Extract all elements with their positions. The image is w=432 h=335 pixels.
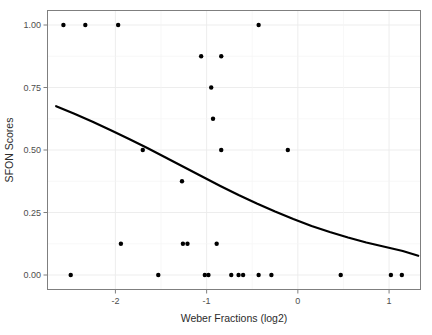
x-axis: -2-101 — [111, 290, 391, 306]
data-point — [61, 23, 65, 27]
data-point — [181, 242, 185, 246]
data-point — [219, 148, 223, 152]
data-point — [236, 273, 240, 277]
data-point — [400, 273, 404, 277]
data-point — [211, 117, 215, 121]
data-point — [214, 242, 218, 246]
x-tick-label-3: 1 — [387, 296, 392, 306]
data-point — [206, 273, 210, 277]
data-point — [141, 148, 145, 152]
plot-canvas: 0.000.250.500.751.00-2-101Weber Fraction… — [0, 0, 432, 335]
data-point — [199, 54, 203, 58]
x-tick-label-1: -1 — [203, 296, 211, 306]
data-point — [241, 273, 245, 277]
x-tick-label-0: -2 — [111, 296, 119, 306]
x-tick-label-2: 0 — [295, 296, 300, 306]
data-point — [219, 54, 223, 58]
data-point — [156, 273, 160, 277]
data-point — [116, 23, 120, 27]
data-point — [229, 273, 233, 277]
data-point — [180, 179, 184, 183]
y-axis: 0.000.250.500.751.00 — [23, 20, 47, 280]
data-point — [389, 273, 393, 277]
data-point — [83, 23, 87, 27]
scatter-plot-figure: 0.000.250.500.751.00-2-101Weber Fraction… — [0, 0, 432, 335]
x-axis-title: Weber Fractions (log2) — [181, 312, 288, 324]
data-point — [286, 148, 290, 152]
data-point — [69, 273, 73, 277]
data-point — [185, 242, 189, 246]
y-tick-label-0: 0.00 — [23, 270, 41, 280]
data-point — [119, 242, 123, 246]
data-point — [256, 23, 260, 27]
y-tick-label-3: 0.75 — [23, 83, 41, 93]
data-point — [339, 273, 343, 277]
data-point — [256, 273, 260, 277]
y-tick-label-1: 0.25 — [23, 208, 41, 218]
y-tick-label-4: 1.00 — [23, 20, 41, 30]
data-point — [269, 273, 273, 277]
y-tick-label-2: 0.50 — [23, 145, 41, 155]
data-point — [209, 85, 213, 89]
y-axis-title: SFON Scores — [3, 118, 15, 183]
